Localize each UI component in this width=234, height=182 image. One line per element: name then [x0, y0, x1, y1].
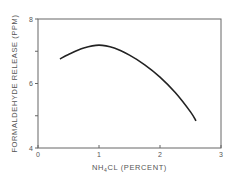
x-tick-label: 1	[97, 151, 101, 158]
y-tick-label: 6	[29, 80, 33, 87]
y-axis-label: FORMALDEHYDE RELEASE (PPM)	[10, 14, 19, 152]
y-tick-label: 4	[29, 145, 33, 152]
x-axis-ticks: 0123	[36, 145, 223, 158]
x-axis-label: NH4CL (PERCENT)	[92, 163, 167, 173]
data-curve	[60, 45, 196, 121]
x-axis-label-main: NH	[92, 163, 104, 172]
y-tick-label: 8	[29, 16, 33, 23]
chart: 0123 468 NH4CL (PERCENT) FORMALDEHYDE RE…	[0, 0, 234, 182]
x-tick-label: 0	[36, 151, 40, 158]
x-tick-label: 3	[219, 151, 223, 158]
plot-frame	[38, 19, 221, 148]
x-axis-label-rest: CL (PERCENT)	[108, 163, 167, 172]
x-tick-label: 2	[158, 151, 162, 158]
y-axis-ticks: 468	[29, 16, 38, 152]
